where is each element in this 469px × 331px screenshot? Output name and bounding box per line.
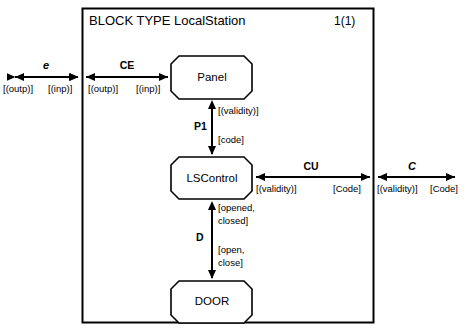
channel-d-opened-signals-line1: [opened, <box>218 203 255 213</box>
sdl-diagram-graphics <box>0 0 469 331</box>
channel-d-arrowhead-up <box>208 201 216 210</box>
block-label-door: DOOR <box>195 296 230 308</box>
gate-e-outp-signals: [(outp)] <box>3 84 33 94</box>
block-label-panel: Panel <box>197 72 226 84</box>
page-number: 1(1) <box>334 15 355 27</box>
block-label-lscontrol: LSControl <box>186 173 237 185</box>
channel-ce-outp-signals: [(outp)] <box>88 84 118 94</box>
channel-ce-name: CE <box>120 60 135 71</box>
diagram-canvas: BLOCK TYPE LocalStation 1(1) e [(outp)] … <box>0 0 469 331</box>
channel-cu-validity-signals: [(validity)] <box>256 184 297 194</box>
channel-cu-arrowhead-left <box>256 173 265 181</box>
channel-d-open-signals-line1: [open, <box>218 245 244 255</box>
channel-ce-inp-signals: [(inp)] <box>136 84 160 94</box>
channel-ce-arrowhead-left <box>86 73 95 81</box>
page-title: BLOCK TYPE LocalStation <box>89 14 246 27</box>
gate-c-name: C <box>408 161 416 172</box>
channel-d-arrowhead-down <box>208 270 216 279</box>
gate-e-name: e <box>43 60 49 71</box>
channel-cu-arrowhead-right <box>361 173 370 181</box>
gate-e-arrowhead-right <box>69 73 78 81</box>
gate-e-inp-signals: [(inp)] <box>48 84 72 94</box>
channel-cu-name: CU <box>303 161 318 172</box>
channel-cu-code-signals: [Code] <box>333 184 361 194</box>
gate-e-arrowhead-left <box>15 73 24 81</box>
channel-d-name: D <box>196 232 204 243</box>
gate-c-code-signals: [Code] <box>430 184 458 194</box>
channel-p1-arrowhead-down <box>208 146 216 155</box>
channel-p1-validity-signals: [(validity)] <box>218 106 259 116</box>
channel-d-open-signals-line2: close] <box>218 258 243 268</box>
gate-c-arrowhead-left <box>378 173 387 181</box>
channel-p1-arrowhead-up <box>208 100 216 109</box>
gate-c-validity-signals: [(validity)] <box>377 184 418 194</box>
gate-c-arrowhead-right <box>446 173 455 181</box>
channel-p1-name: P1 <box>194 121 207 132</box>
channel-ce-arrowhead-right <box>159 73 168 81</box>
channel-d-opened-signals-line2: closed] <box>218 216 248 226</box>
channel-p1-code-signals: [code] <box>218 135 244 145</box>
